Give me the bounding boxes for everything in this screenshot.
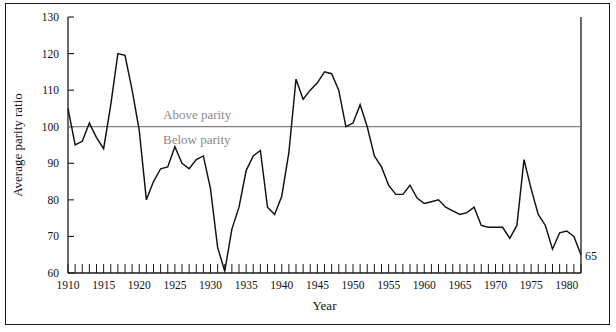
x-axis-tick-label: 1950 (342, 279, 365, 291)
y-axis-tick-label: 120 (42, 48, 60, 60)
chart-page: 6070809010011012013019101915192019251930… (0, 0, 616, 332)
x-axis-tick-label: 1960 (413, 279, 436, 291)
x-axis-tick-label: 1925 (163, 279, 186, 291)
y-axis-tick-label: 60 (48, 267, 60, 279)
x-axis-tick-label: 1915 (92, 279, 115, 291)
below-parity-annotation: Below parity (163, 132, 231, 147)
above-parity-annotation: Above parity (163, 107, 232, 122)
y-axis-title-text: Average parity ratio (10, 93, 25, 197)
x-axis-tick-label: 1930 (199, 279, 222, 291)
right-edge-value-annotation: 65 (585, 249, 597, 263)
y-axis-tick-label: 70 (48, 230, 60, 242)
parity-ratio-line-chart: 6070809010011012013019101915192019251930… (0, 0, 616, 332)
y-axis-tick-label: 80 (48, 194, 60, 206)
x-axis-tick-label: 1910 (57, 279, 80, 291)
x-axis-tick-label: 1975 (520, 279, 543, 291)
x-axis-tick-label: 1945 (306, 279, 329, 291)
y-axis-tick-label: 130 (42, 11, 60, 23)
x-axis-tick-label: 1970 (484, 279, 507, 291)
y-axis-tick-label: 90 (48, 157, 60, 169)
y-axis-tick-label: 100 (42, 121, 60, 133)
data-series-line (68, 54, 581, 272)
x-axis-tick-label: 1920 (128, 279, 151, 291)
x-axis-tick-label: 1940 (270, 279, 293, 291)
x-axis-title-text: Year (313, 298, 338, 313)
x-axis-tick-label: 1965 (448, 279, 471, 291)
y-axis-tick-label: 110 (42, 84, 59, 96)
x-axis-tick-label: 1935 (235, 279, 258, 291)
figure-container: 6070809010011012013019101915192019251930… (0, 0, 616, 332)
x-axis-tick-label: 1980 (555, 279, 578, 291)
x-axis-tick-label: 1955 (377, 279, 400, 291)
